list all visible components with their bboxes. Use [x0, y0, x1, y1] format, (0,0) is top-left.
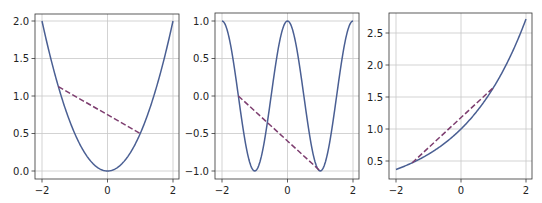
x-tick-label: 0	[284, 185, 290, 196]
y-tick-label: 1.0	[193, 16, 209, 27]
three-subplot-chart: −2020.00.51.01.52.0−202−1.0−0.50.00.51.0…	[0, 0, 542, 203]
axes-frame	[35, 14, 179, 179]
subplot-1: −2020.00.51.01.52.0	[13, 14, 179, 196]
subplot-2: −202−1.0−0.50.00.51.0	[185, 13, 359, 196]
y-tick-label: 2.0	[13, 16, 29, 27]
y-tick-label: 0.5	[13, 128, 29, 139]
x-tick-label: 0	[458, 185, 464, 196]
y-tick-label: 0.0	[193, 91, 209, 102]
y-tick-label: 1.0	[367, 124, 383, 135]
grid-lines	[35, 14, 179, 179]
x-tick-label: 2	[523, 185, 529, 196]
y-tick-label: 0.5	[193, 53, 209, 64]
y-tick-label: 2.5	[367, 28, 383, 39]
secant-dashed-line	[58, 87, 140, 134]
y-tick-label: −0.5	[185, 128, 209, 139]
y-tick-label: 0.5	[367, 156, 383, 167]
y-tick-label: 2.0	[367, 60, 383, 71]
x-tick-label: −2	[35, 185, 50, 196]
x-tick-label: 2	[350, 185, 356, 196]
y-tick-label: 0.0	[13, 166, 29, 177]
secant-dashed-line	[412, 87, 493, 162]
y-tick-label: 1.0	[13, 91, 29, 102]
x-tick-label: −2	[389, 185, 404, 196]
subplot-3: −2020.51.01.52.02.5	[367, 13, 532, 196]
x-tick-label: 0	[104, 185, 110, 196]
y-tick-label: 1.5	[367, 92, 383, 103]
x-tick-label: 2	[170, 185, 176, 196]
x-tick-label: −2	[215, 185, 230, 196]
y-tick-label: −1.0	[185, 166, 209, 177]
figure: −2020.00.51.01.52.0−202−1.0−0.50.00.51.0…	[0, 0, 542, 203]
grid-lines	[215, 13, 359, 179]
grid-lines	[389, 13, 532, 179]
axes-frame	[389, 13, 532, 179]
y-tick-label: 1.5	[13, 53, 29, 64]
